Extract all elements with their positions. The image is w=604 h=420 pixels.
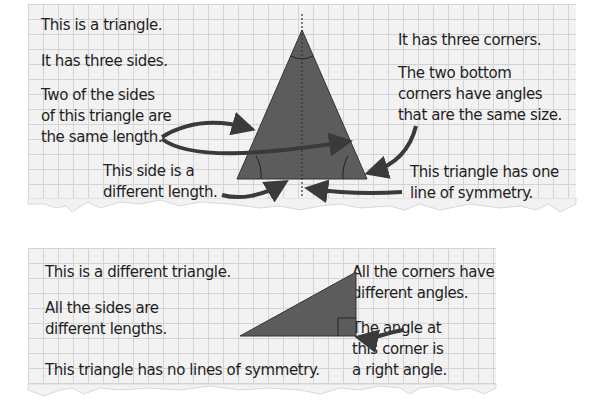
arrow-to-right-angle [362,330,404,338]
right-triangle [240,272,356,336]
bottom-figure [0,0,604,420]
